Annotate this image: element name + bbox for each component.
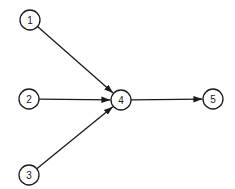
node-4: 4: [111, 90, 131, 110]
node-label: 1: [27, 15, 33, 26]
node-5: 5: [203, 89, 223, 109]
node-1: 1: [20, 10, 40, 30]
network-diagram: 12345: [0, 0, 235, 189]
node-label: 2: [26, 94, 32, 105]
edge-1-to-4-arrow: [38, 27, 114, 93]
node-label: 3: [26, 170, 32, 181]
node-label: 4: [118, 95, 124, 106]
node-3: 3: [19, 165, 39, 185]
node-label: 5: [210, 94, 216, 105]
edge-3-to-4-arrow: [37, 107, 113, 169]
edge-4-to-5-arrow: [131, 99, 203, 100]
edge-2-to-4-arrow: [39, 99, 111, 100]
node-2: 2: [19, 89, 39, 109]
